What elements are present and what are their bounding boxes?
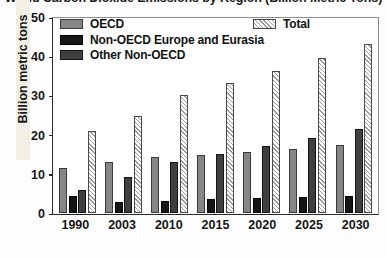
y-tick-10: 10	[31, 168, 53, 182]
y-tick-label-20: 20	[31, 129, 49, 143]
bar-other-2015[interactable]	[216, 154, 224, 213]
bar-total-2025[interactable]	[318, 58, 326, 213]
legend-swatch-oecd	[60, 19, 83, 29]
y-tick-20: 20	[31, 129, 53, 143]
chart-figure: World Carbon Dioxide Emissions by Region…	[0, 0, 387, 258]
y-tick-label-0: 0	[38, 207, 49, 221]
x-tick-label-2020: 2020	[239, 218, 286, 232]
y-tick-mark-30	[49, 96, 53, 97]
bar-other-2030[interactable]	[355, 129, 363, 213]
bar-group-2025	[285, 19, 331, 212]
bar-oecd-2010[interactable]	[151, 157, 159, 212]
bar-total-1990[interactable]	[88, 131, 96, 213]
bar-noneu-2030[interactable]	[345, 196, 353, 213]
legend-item-total[interactable]: Total	[253, 18, 310, 30]
y-tick-label-10: 10	[31, 168, 49, 182]
y-tick-40: 40	[31, 50, 53, 64]
y-tick-mark-10	[49, 174, 53, 175]
legend-label-oecd: OECD	[90, 17, 124, 31]
bar-total-2015[interactable]	[226, 83, 234, 213]
y-tick-mark-40	[49, 57, 53, 58]
bar-noneu-2015[interactable]	[207, 199, 215, 212]
bar-total-2020[interactable]	[272, 71, 280, 213]
y-axis-label: Billion metric tons	[16, 0, 30, 160]
bar-oecd-2015[interactable]	[197, 155, 205, 213]
y-tick-mark-0	[49, 214, 53, 215]
x-axis: 1990200320102015202020252030	[52, 218, 379, 232]
y-tick-label-30: 30	[31, 89, 49, 103]
x-tick-label-2025: 2025	[286, 218, 333, 232]
bar-other-2025[interactable]	[308, 138, 316, 212]
y-tick-30: 30	[31, 89, 53, 103]
legend-label-other-non-oecd: Other Non-OECD	[90, 48, 185, 62]
y-tick-mark-20	[49, 135, 53, 136]
bar-oecd-2020[interactable]	[243, 152, 251, 212]
chart-title: World Carbon Dioxide Emissions by Region…	[0, 0, 387, 5]
bar-total-2010[interactable]	[180, 95, 188, 213]
legend-item-oecd[interactable]: OECD	[60, 18, 264, 30]
bar-oecd-2030[interactable]	[336, 145, 344, 212]
legend-item-other-non-oecd[interactable]: Other Non-OECD	[60, 49, 264, 61]
bar-noneu-1990[interactable]	[69, 196, 77, 212]
bar-other-1990[interactable]	[78, 190, 86, 212]
bar-noneu-2025[interactable]	[299, 197, 307, 212]
legend-swatch-non-oecd-europe-and-eurasia	[60, 35, 83, 45]
bar-noneu-2003[interactable]	[115, 202, 123, 213]
bar-oecd-2025[interactable]	[289, 149, 297, 212]
legend-swatch-other-non-oecd	[60, 50, 83, 60]
legend-swatch-total	[253, 19, 276, 29]
bar-total-2030[interactable]	[364, 44, 372, 212]
bar-oecd-1990[interactable]	[59, 168, 67, 213]
bar-other-2010[interactable]	[170, 162, 178, 213]
bar-total-2003[interactable]	[134, 116, 142, 213]
bar-group-2030	[331, 19, 377, 212]
bar-oecd-2003[interactable]	[105, 162, 113, 213]
x-tick-label-1990: 1990	[52, 218, 99, 232]
bar-noneu-2020[interactable]	[253, 198, 261, 212]
bar-other-2020[interactable]	[262, 146, 270, 213]
legend-item-non-oecd-europe-and-eurasia[interactable]: Non-OECD Europe and Eurasia	[60, 34, 264, 46]
y-tick-label-50: 50	[31, 11, 49, 25]
y-tick-label-40: 40	[31, 50, 49, 64]
y-tick-0: 0	[38, 207, 53, 221]
x-tick-label-2015: 2015	[192, 218, 239, 232]
y-tick-mark-50	[49, 18, 53, 19]
legend-total: Total	[253, 18, 310, 30]
bar-other-2003[interactable]	[124, 177, 132, 213]
legend-label-total: Total	[283, 17, 310, 31]
x-tick-label-2010: 2010	[145, 218, 192, 232]
bar-noneu-2010[interactable]	[161, 201, 169, 213]
x-tick-label-2003: 2003	[99, 218, 146, 232]
legend-primary: OECD Non-OECD Europe and Eurasia Other N…	[60, 18, 264, 61]
legend-label-non-oecd-europe-and-eurasia: Non-OECD Europe and Eurasia	[90, 33, 264, 47]
y-tick-50: 50	[31, 11, 53, 25]
x-tick-label-2030: 2030	[332, 218, 379, 232]
